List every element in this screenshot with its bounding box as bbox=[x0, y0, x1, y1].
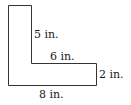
l-shape-diagram: 5 in. 6 in. 2 in. 8 in. bbox=[0, 0, 131, 105]
l-shape-outline bbox=[9, 6, 97, 86]
label-inner-horizontal: 6 in. bbox=[50, 50, 75, 63]
label-bottom: 8 in. bbox=[39, 88, 64, 101]
label-right-side: 2 in. bbox=[99, 68, 124, 81]
label-inner-vertical: 5 in. bbox=[34, 28, 59, 41]
